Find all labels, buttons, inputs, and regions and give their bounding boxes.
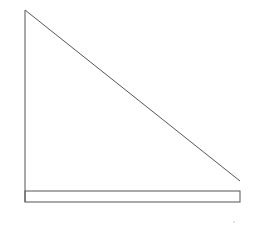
depreciation-line [25, 10, 240, 181]
straight-line-depreciation-chart [0, 0, 259, 232]
salvage-value-band [25, 191, 240, 202]
stray-dot [233, 221, 234, 222]
